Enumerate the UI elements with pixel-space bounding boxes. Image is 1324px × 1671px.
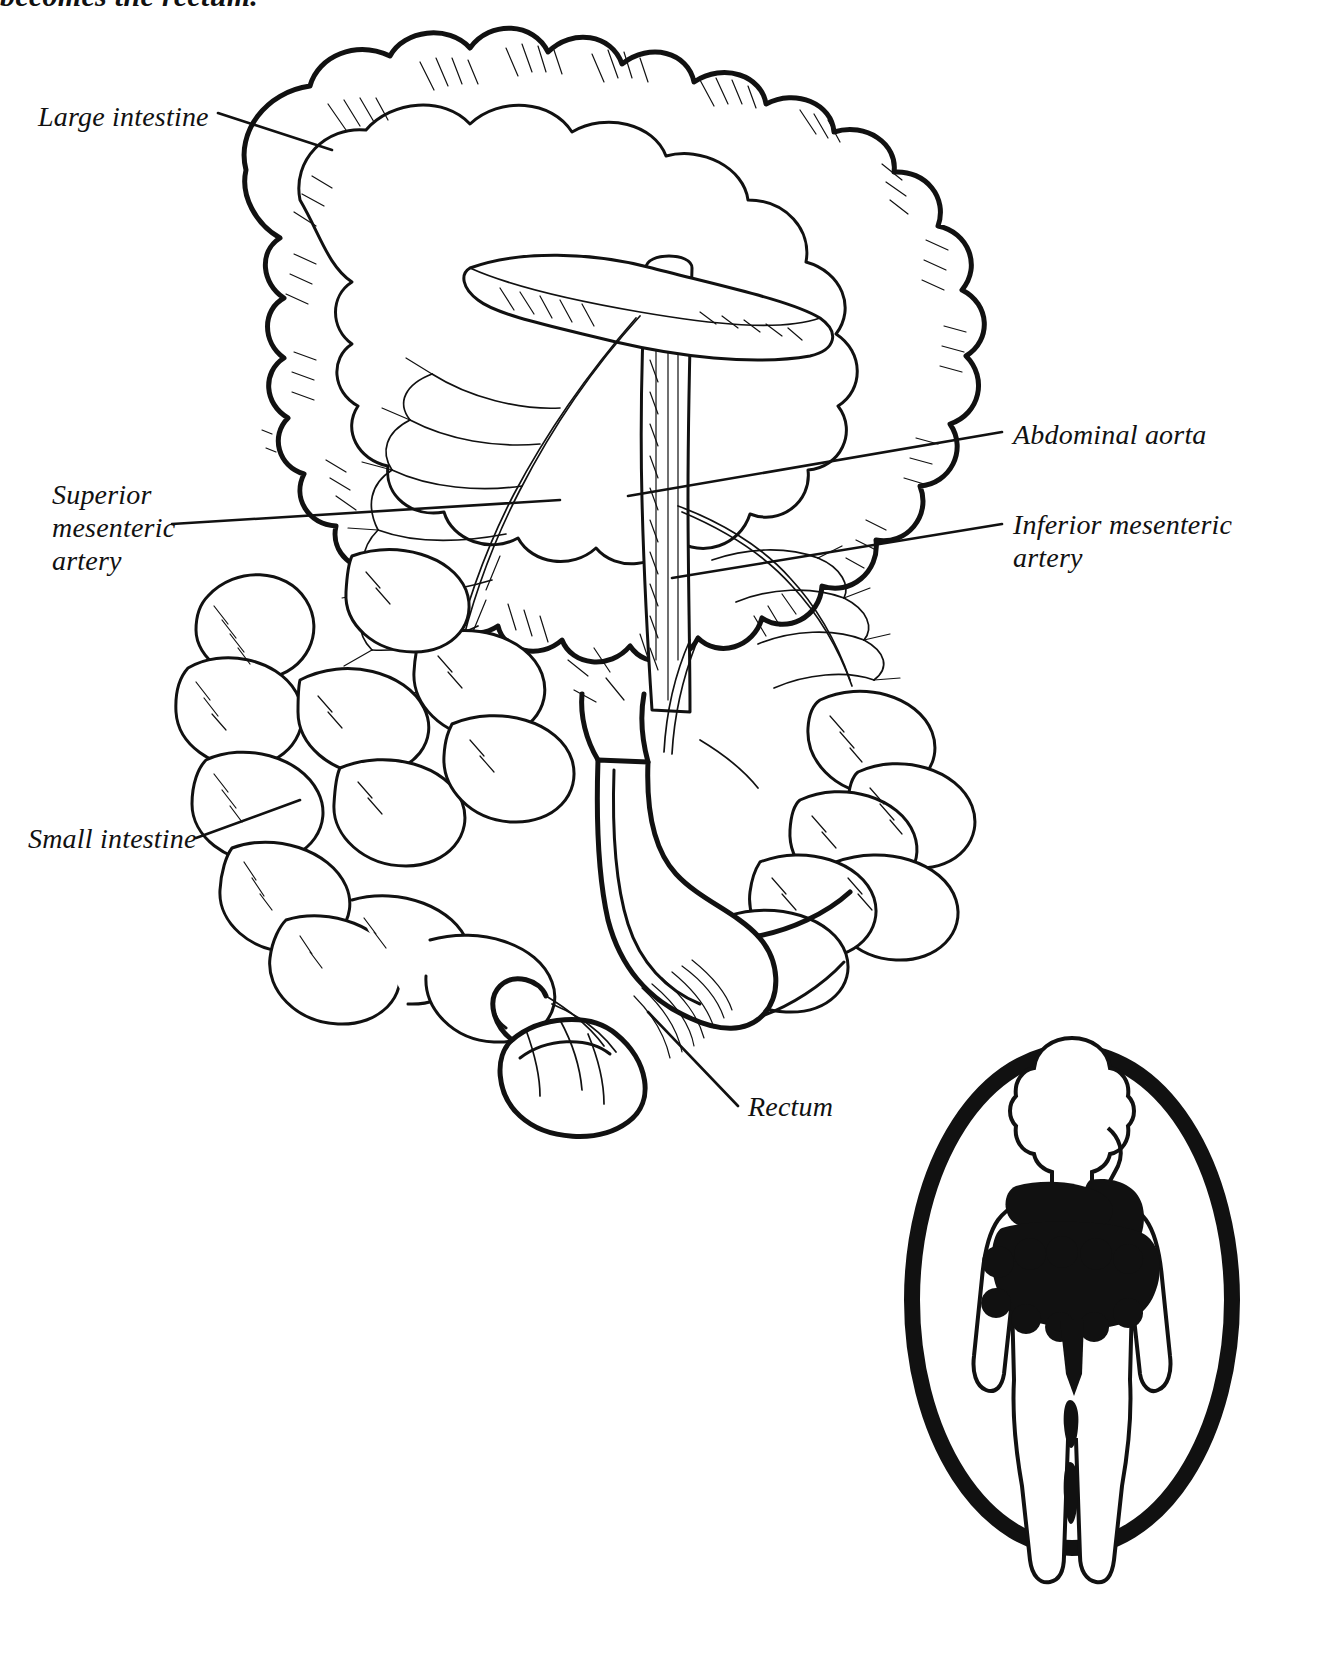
body-orientation-inset — [912, 1038, 1232, 1582]
intestine-illustration — [0, 0, 1324, 1671]
label-superior-mesenteric-artery: Superior mesenteric artery — [52, 478, 175, 577]
label-large-intestine: Large intestine — [38, 100, 209, 133]
label-small-intestine: Small intestine — [28, 822, 197, 855]
illustration-page: becomes the rectum. Large intestine Supe… — [0, 0, 1324, 1671]
label-inferior-mesenteric-artery: Inferior mesenteric artery — [1013, 508, 1232, 574]
label-rectum: Rectum — [748, 1090, 833, 1123]
caption-top: becomes the rectum. — [0, 0, 258, 12]
label-abdominal-aorta: Abdominal aorta — [1013, 418, 1207, 451]
